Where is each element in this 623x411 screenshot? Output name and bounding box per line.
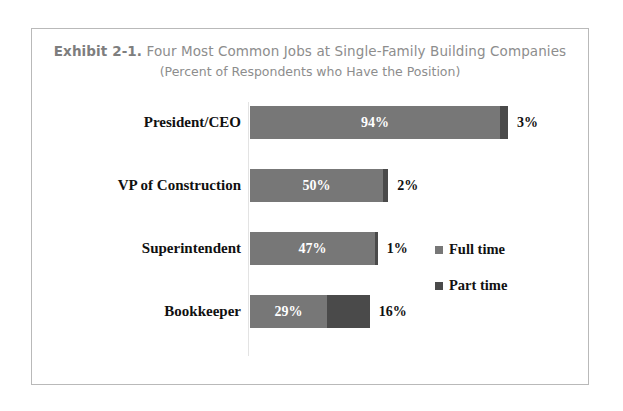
bar-segment-part-time (500, 106, 508, 139)
legend-item: Full time (435, 241, 507, 258)
stacked-bar: 47% (250, 232, 378, 265)
bar-value-part-time: 16% (379, 295, 407, 328)
bar-segment-full-time: 50% (250, 169, 383, 202)
bar-row: President/CEO94%3% (32, 106, 590, 139)
chart-legend: Full timePart time (435, 241, 507, 313)
bar-value-part-time: 1% (387, 232, 408, 265)
stacked-bar: 29% (250, 295, 370, 328)
exhibit-panel: Exhibit 2-1. Four Most Common Jobs at Si… (31, 28, 589, 385)
legend-swatch-full-time (435, 246, 443, 254)
bar-segment-full-time: 29% (250, 295, 327, 328)
bar-segment-part-time (327, 295, 370, 328)
bar-segment-part-time (375, 232, 378, 265)
stacked-bar: 50% (250, 169, 388, 202)
legend-swatch-part-time (435, 282, 443, 290)
category-label: Bookkeeper (164, 295, 241, 328)
category-label: President/CEO (144, 106, 241, 139)
stacked-bar: 94% (250, 106, 508, 139)
bar-value-full-time: 29% (275, 304, 303, 320)
bar-segment-full-time: 47% (250, 232, 375, 265)
bar-value-part-time: 3% (517, 106, 538, 139)
bar-value-part-time: 2% (397, 169, 418, 202)
bar-value-full-time: 50% (303, 178, 331, 194)
legend-label: Full time (449, 241, 505, 258)
bar-segment-full-time: 94% (250, 106, 500, 139)
category-label: Superintendent (142, 232, 241, 265)
legend-item: Part time (435, 277, 507, 294)
bar-value-full-time: 47% (299, 241, 327, 257)
category-label: VP of Construction (118, 169, 241, 202)
bar-segment-part-time (383, 169, 388, 202)
bar-row: VP of Construction50%2% (32, 169, 590, 202)
legend-label: Part time (449, 277, 507, 294)
bar-value-full-time: 94% (361, 115, 389, 131)
plot-area: President/CEO94%3%VP of Construction50%2… (32, 29, 590, 386)
